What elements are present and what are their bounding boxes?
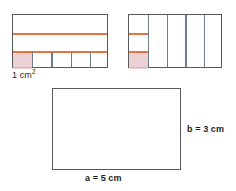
column-divider-line-4: [204, 15, 205, 67]
cell-divider-line-1: [32, 52, 33, 67]
unit-square-label: 1 cm2: [12, 70, 36, 80]
unit-square-label-exponent: 2: [32, 68, 36, 75]
column-divider-line-1: [148, 15, 149, 67]
first-column-divider-line-1: [129, 33, 148, 35]
side-b-label: b = 3 cm: [187, 124, 224, 134]
unit-square-shaded-cols: [129, 51, 148, 69]
first-column-divider-line-2: [129, 51, 148, 53]
rectangle-divided-into-columns: [128, 14, 222, 68]
cell-divider-line-2: [51, 52, 52, 67]
column-divider-line-3: [185, 15, 186, 67]
cell-divider-line-4: [90, 52, 91, 67]
row-divider-line-1: [13, 33, 107, 35]
row-divider-line-2: [13, 51, 107, 53]
rectangle-divided-into-rows: [12, 14, 108, 68]
area-decomposition-figure: 1 cm2 a = 5 cm b = 3 cm: [0, 0, 236, 191]
unit-square-shaded-rows: [13, 51, 32, 69]
unit-square-label-value: 1 cm: [12, 70, 32, 80]
column-divider-line-2: [167, 15, 168, 67]
side-a-label: a = 5 cm: [85, 173, 122, 183]
plain-rectangle: [52, 88, 181, 170]
cell-divider-line-3: [71, 52, 72, 67]
